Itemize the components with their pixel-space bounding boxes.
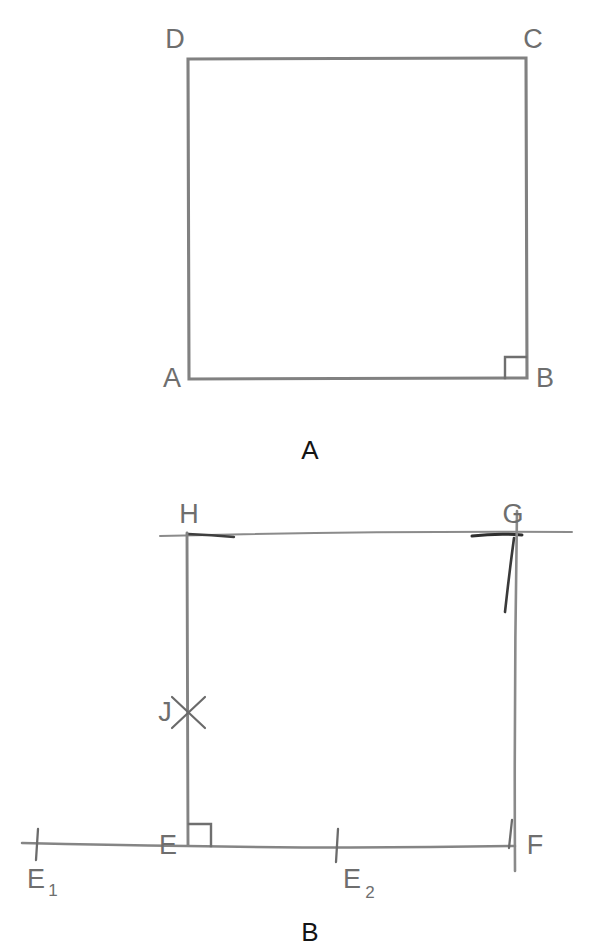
tick-label-e1-base: E [27,864,45,894]
vertex-label-d: D [165,24,185,54]
tick-mark-f [509,820,512,848]
point-label-j: J [158,697,172,727]
vertex-label-b: B [536,363,554,393]
tick-label-e1: E 1 [27,864,58,900]
right-angle-mark-b [505,357,526,378]
figure-a-square-outline [188,58,527,379]
stroke-emphasis-gf [505,538,514,612]
geometry-figure-canvas: D C A B A [0,0,589,952]
figure-b-group: H G E F J E 1 E 2 B [22,499,572,947]
tick-label-e1-subscript: 1 [48,881,57,900]
tick-label-e2-subscript: 2 [365,883,374,902]
vertex-label-e: E [159,830,177,860]
figure-b-caption: B [301,917,318,947]
tick-mark-e1 [36,829,38,860]
vertex-label-h: H [179,499,199,529]
tick-label-e2: E 2 [343,864,375,902]
vertex-label-c: C [523,24,543,54]
figure-a-group: D C A B A [163,24,554,465]
vertex-label-a: A [163,363,181,393]
segment-he [187,533,188,845]
arc-mark-near-g [472,534,522,536]
tick-label-e2-base: E [343,864,361,894]
segment-gf [515,511,517,871]
baseline-e1-f [22,843,515,848]
vertex-label-g: G [502,499,523,529]
vertex-label-f: F [527,830,544,860]
right-angle-mark-e [189,824,211,846]
tick-mark-e2 [336,829,338,862]
figure-a-caption: A [301,435,319,465]
